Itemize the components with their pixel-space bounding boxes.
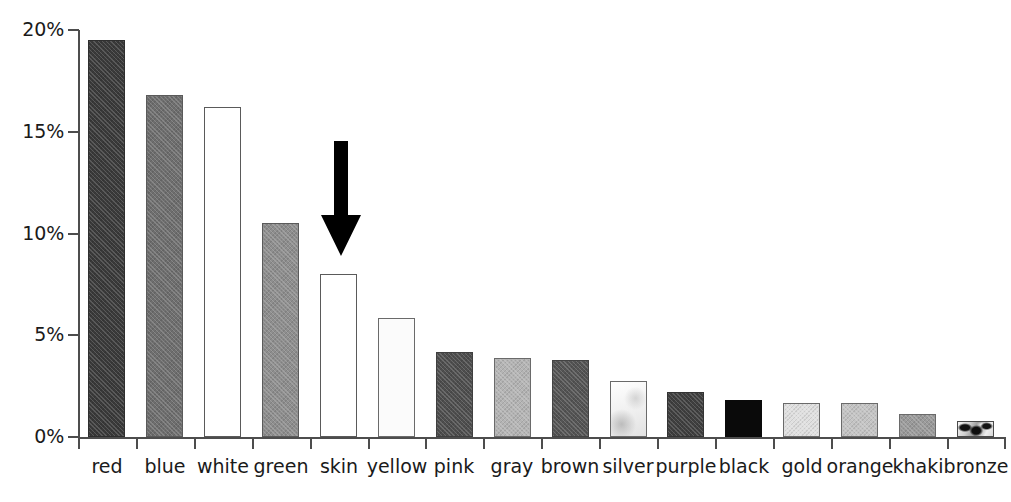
bar-khaki [899, 414, 936, 437]
bar-texture [147, 96, 182, 436]
bar-texture [668, 393, 703, 436]
bar-texture [89, 41, 124, 436]
bar-blue [146, 95, 183, 437]
bar-black [725, 400, 762, 437]
bar-brown [552, 360, 589, 437]
skin-highlight-arrow [320, 141, 362, 257]
bar-orange [841, 403, 878, 437]
down-arrow-icon [320, 141, 362, 257]
bar-purple [667, 392, 704, 437]
bar-texture [958, 422, 993, 436]
bar-silver [610, 381, 647, 437]
bar-yellow [378, 318, 415, 437]
bar-texture [842, 404, 877, 436]
bar-pink [436, 352, 473, 437]
bar-texture [553, 361, 588, 436]
bar-skin [320, 274, 357, 437]
bar-red [88, 40, 125, 437]
bar-white [204, 107, 241, 437]
bar-texture [263, 224, 298, 436]
bar-texture [611, 382, 646, 436]
bar-texture [900, 415, 935, 436]
bar-bronze [957, 421, 994, 437]
bar-texture [495, 359, 530, 436]
bar-gold [783, 403, 820, 437]
x-axis-label-bronze: bronze [941, 455, 1011, 477]
bar-green [262, 223, 299, 437]
bar-texture [437, 353, 472, 436]
bar-texture [784, 404, 819, 436]
bar-gray [494, 358, 531, 437]
